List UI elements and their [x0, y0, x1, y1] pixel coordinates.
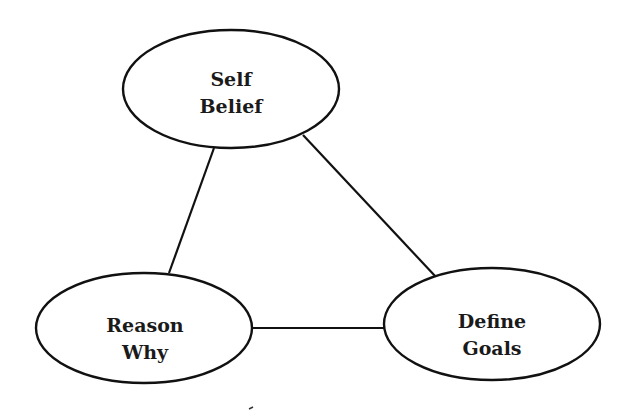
node-self-belief-label-line2: Belief [200, 95, 265, 117]
node-reason-why-label-line1: Reason [106, 314, 184, 336]
node-self-belief: Self Belief [123, 30, 339, 148]
edge-self-belief-define-goals [303, 135, 436, 277]
node-define-goals: Define Goals [384, 268, 600, 380]
node-reason-why-label-line2: Why [121, 341, 169, 363]
node-reason-why: Reason Why [36, 273, 252, 383]
edge-self-belief-reason-why [169, 148, 214, 273]
diagram-canvas: Self Belief Reason Why Define Goals [0, 0, 633, 415]
node-self-belief-label-line1: Self [210, 68, 253, 90]
scan-speck [249, 407, 253, 409]
node-define-goals-label-line2: Goals [462, 337, 521, 359]
node-define-goals-label-line1: Define [458, 310, 526, 332]
